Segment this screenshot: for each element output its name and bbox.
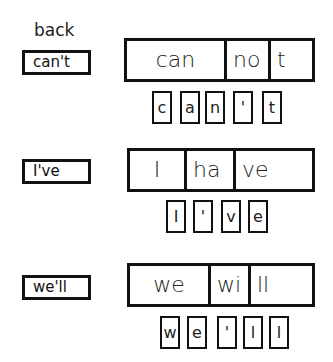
- letter-tile: a: [180, 91, 200, 124]
- letter-tile: t: [262, 91, 282, 124]
- back-label: back: [34, 20, 74, 40]
- word-segment: wi: [211, 266, 251, 304]
- split-word-box-well: we wi ll: [127, 263, 315, 307]
- word-segment: ve: [236, 151, 312, 189]
- apostrophe-tile: ': [217, 316, 237, 349]
- word-segment: t: [271, 41, 312, 79]
- letter-tile: l: [269, 316, 289, 349]
- apostrophe-tile: ': [193, 200, 213, 233]
- word-segment: ll: [251, 266, 312, 304]
- contraction-label-cant: can't: [22, 50, 91, 75]
- letter-tile: v: [221, 200, 241, 233]
- word-segment: no: [227, 41, 271, 79]
- word-segment: I: [130, 151, 187, 189]
- letter-tile: c: [152, 91, 172, 124]
- word-segment: can: [127, 41, 227, 79]
- letter-tile: l: [243, 316, 263, 349]
- letter-tile: e: [248, 200, 268, 233]
- letter-tile: e: [187, 316, 207, 349]
- letter-tile: w: [160, 316, 180, 349]
- word-segment: we: [130, 266, 211, 304]
- split-word-box-cant: can no t: [124, 38, 315, 82]
- split-word-box-ive: I ha ve: [127, 148, 315, 192]
- letter-tile: I: [166, 200, 186, 233]
- word-segment: ha: [187, 151, 236, 189]
- apostrophe-tile: ': [233, 91, 253, 124]
- letter-tile: n: [205, 91, 225, 124]
- contraction-label-ive: I've: [22, 159, 91, 184]
- contraction-label-well: we'll: [22, 275, 91, 300]
